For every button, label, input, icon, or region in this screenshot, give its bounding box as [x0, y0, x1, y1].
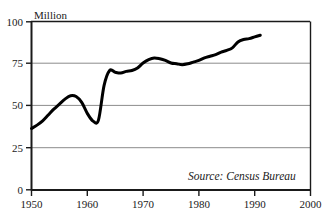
x-tick-labels: 1950 1960 1970 1980 1990 2000	[21, 198, 323, 210]
y-tick-label-100: 100	[7, 16, 24, 28]
y-axis-unit-label: Million	[34, 9, 68, 21]
plot-area-background	[31, 22, 310, 190]
x-tick-label-2000: 2000	[300, 198, 323, 210]
x-tick-label-1990: 1990	[244, 198, 267, 210]
y-tick-label-75: 75	[12, 57, 24, 69]
y-tick-labels: 100 75 50 25 0	[7, 16, 24, 196]
x-tick-label-1980: 1980	[188, 198, 211, 210]
line-chart: 100 75 50 25 0 1950 1960 1970 1980 1990 …	[0, 0, 331, 218]
x-tick-label-1970: 1970	[132, 198, 155, 210]
source-note: Source: Census Bureau	[188, 170, 296, 182]
y-tick-label-50: 50	[12, 99, 24, 111]
x-tick-label-1950: 1950	[21, 198, 44, 210]
x-tick-label-1960: 1960	[76, 198, 99, 210]
y-tick-marks	[26, 22, 31, 190]
y-tick-label-0: 0	[18, 184, 24, 196]
chart-page: 100 75 50 25 0 1950 1960 1970 1980 1990 …	[0, 0, 331, 218]
y-tick-label-25: 25	[12, 142, 24, 154]
